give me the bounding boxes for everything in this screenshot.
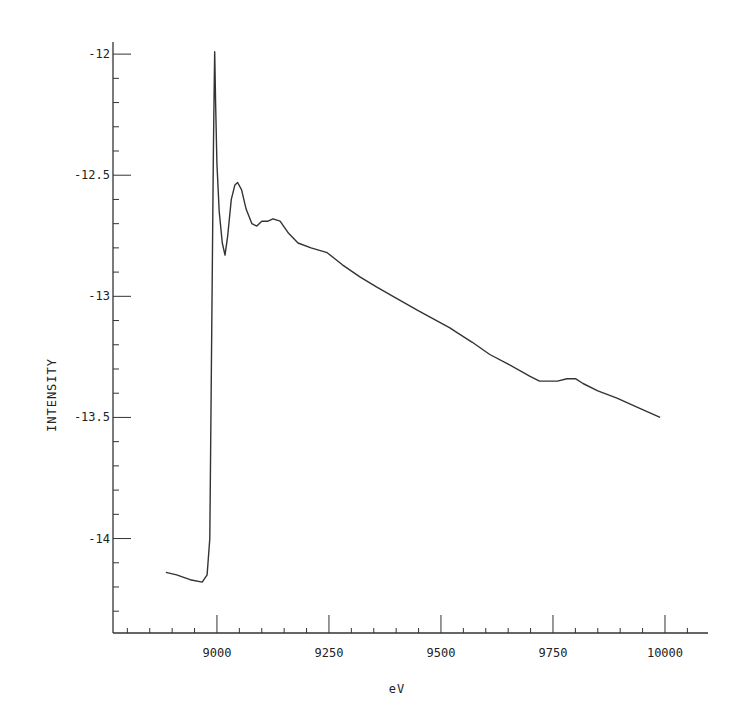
y-axis-title: INTENSITY [45,358,59,432]
spectrum-line [166,52,660,582]
x-tick-label: 10000 [647,646,683,660]
y-tick-label: -13 [88,289,110,303]
x-tick-label: 9250 [315,646,344,660]
x-axis-title: eV [389,682,405,696]
x-axis: 900092509500975010000 [113,615,708,660]
x-tick-label: 9750 [539,646,568,660]
y-tick-label: -13.5 [74,410,110,424]
y-tick-label: -14 [88,532,110,546]
plot-series [166,52,660,582]
y-axis: -12-12.5-13-13.5-14 [74,42,131,633]
x-tick-label: 9500 [427,646,456,660]
xafs-line-chart: 900092509500975010000 -12-12.5-13-13.5-1… [0,0,743,723]
y-tick-label: -12.5 [74,168,110,182]
y-tick-label: -12 [88,47,110,61]
x-tick-label: 9000 [202,646,231,660]
